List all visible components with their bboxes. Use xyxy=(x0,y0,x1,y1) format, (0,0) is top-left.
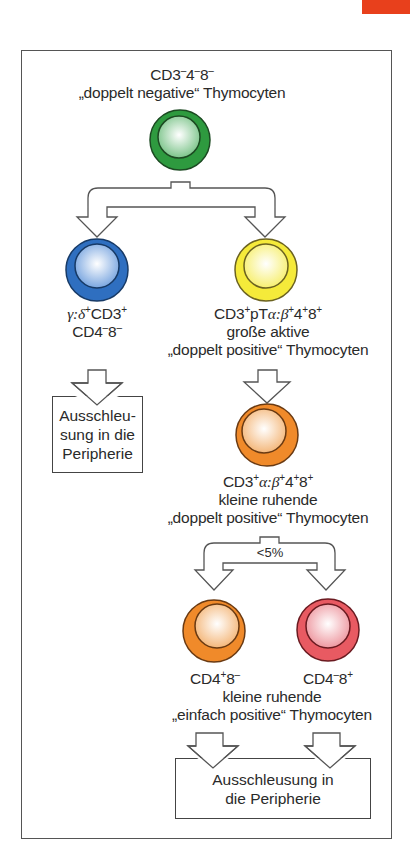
arrow-overlay xyxy=(0,0,410,865)
